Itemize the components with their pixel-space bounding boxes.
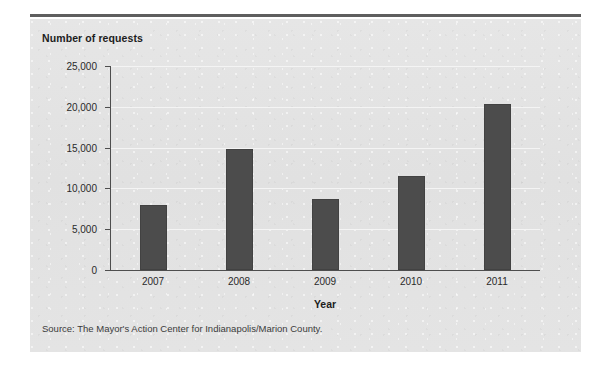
x-axis-tick-label: 2008 bbox=[228, 276, 250, 287]
x-axis-line bbox=[110, 270, 540, 271]
source-note: Source: The Mayor's Action Center for In… bbox=[42, 323, 322, 334]
x-axis-tick-label: 2009 bbox=[314, 276, 336, 287]
top-rule-divider bbox=[30, 14, 581, 17]
gridline bbox=[110, 148, 540, 149]
y-axis-line bbox=[110, 66, 111, 270]
y-axis-tick-label: 15,000 bbox=[66, 142, 97, 153]
y-axis-tick-label: 5,000 bbox=[72, 224, 97, 235]
x-axis-tick-label: 2007 bbox=[142, 276, 164, 287]
y-axis-tick-label: 25,000 bbox=[66, 61, 97, 72]
y-axis-title: Number of requests bbox=[42, 32, 143, 44]
bar-2008 bbox=[226, 149, 253, 270]
y-axis-tick-label: 20,000 bbox=[66, 101, 97, 112]
chart-figure: Number of requests 05,00010,00015,00020,… bbox=[0, 0, 589, 369]
x-axis-title: Year bbox=[110, 298, 540, 310]
y-axis-tick-label: 10,000 bbox=[66, 183, 97, 194]
x-axis-tick-label: 2010 bbox=[400, 276, 422, 287]
gridline bbox=[110, 188, 540, 189]
plot-area: 05,00010,00015,00020,00025,000 200720082… bbox=[110, 66, 540, 270]
gridline bbox=[110, 107, 540, 108]
gridline bbox=[110, 66, 540, 67]
y-axis-tick-label: 0 bbox=[91, 265, 97, 276]
bar-2010 bbox=[398, 176, 425, 270]
bar-2011 bbox=[484, 104, 511, 270]
bar-2009 bbox=[312, 199, 339, 270]
clipped-header-text bbox=[18, 0, 558, 6]
bar-2007 bbox=[140, 205, 167, 270]
chart-panel: Number of requests 05,00010,00015,00020,… bbox=[30, 19, 581, 352]
x-axis-tick-label: 2011 bbox=[486, 276, 508, 287]
